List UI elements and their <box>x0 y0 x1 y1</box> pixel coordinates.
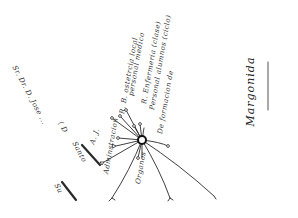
diagram-title: Margonida <box>244 57 257 127</box>
hub-node <box>138 136 146 144</box>
